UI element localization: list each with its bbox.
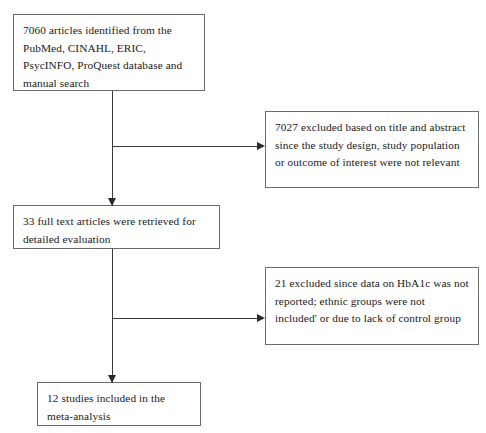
node-excluded-data: 21 excluded since data on HbA1c was not … [265, 267, 479, 345]
arrowhead-down-icon [108, 198, 116, 206]
connector-fulltext-to-included [112, 249, 113, 383]
connector-branch-excluded-title [112, 146, 258, 147]
node-full-text-retrieved: 33 full text articles were retrieved for… [13, 205, 220, 249]
node-studies-included-text: 12 studies included in the meta-analysis [47, 390, 191, 425]
node-articles-identified: 7060 articles identified from the PubMed… [13, 14, 205, 91]
node-articles-identified-text: 7060 articles identified from the PubMed… [23, 22, 195, 92]
connector-branch-excluded-data [112, 318, 258, 319]
node-excluded-data-text: 21 excluded since data on HbA1c was not … [275, 275, 469, 328]
node-excluded-title-abstract-text: 7027 excluded based on title and abstrac… [275, 119, 469, 172]
study-selection-flow-diagram: 7060 articles identified from the PubMed… [0, 0, 486, 433]
arrowhead-right-icon [257, 314, 265, 322]
arrowhead-down-icon [108, 375, 116, 383]
connector-identified-to-fulltext [112, 91, 113, 206]
node-excluded-title-abstract: 7027 excluded based on title and abstrac… [265, 111, 479, 188]
arrowhead-right-icon [257, 142, 265, 150]
node-full-text-retrieved-text: 33 full text articles were retrieved for… [23, 213, 210, 248]
node-studies-included: 12 studies included in the meta-analysis [37, 382, 201, 426]
